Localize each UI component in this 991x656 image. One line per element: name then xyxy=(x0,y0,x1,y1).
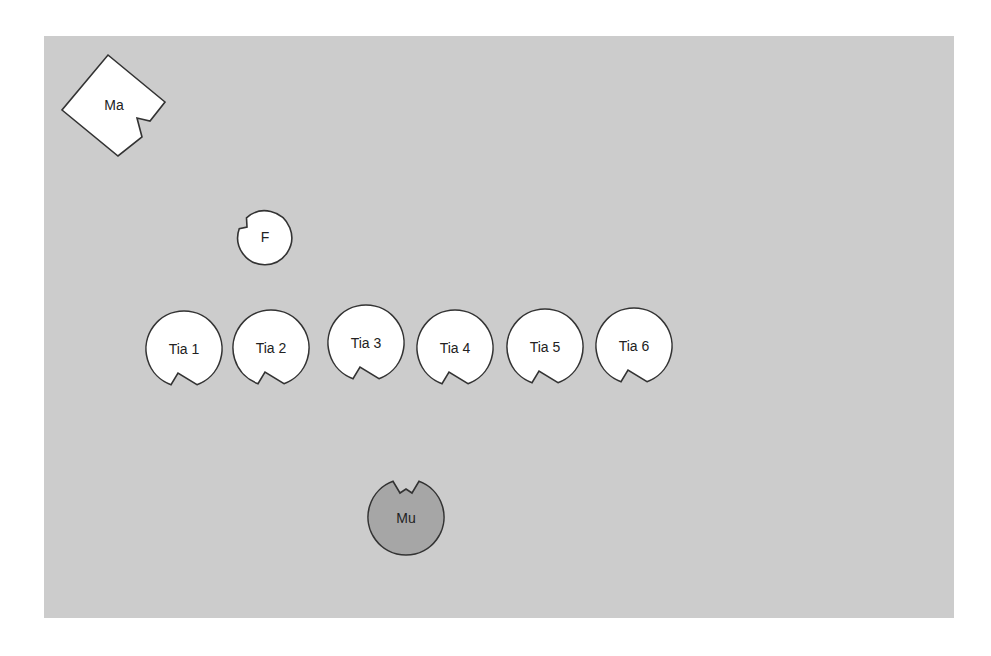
f-label: F xyxy=(261,229,270,245)
node-tia-2: Tia 2 xyxy=(233,310,309,384)
node-tia-6: Tia 6 xyxy=(596,308,672,382)
node-tia-3: Tia 3 xyxy=(328,305,404,379)
node-tia-5: Tia 5 xyxy=(507,309,583,383)
tia-2-label: Tia 2 xyxy=(256,340,287,356)
diagram-canvas: Ma F Tia 1 Tia 2 Tia 3 Tia 4 xyxy=(0,0,991,656)
tia-6-label: Tia 6 xyxy=(619,338,650,354)
tia-5-label: Tia 5 xyxy=(530,339,561,355)
node-f: F xyxy=(238,211,292,265)
mu-label: Mu xyxy=(396,510,415,526)
node-tia-1: Tia 1 xyxy=(146,311,222,385)
ma-label: Ma xyxy=(104,97,124,113)
tia-4-label: Tia 4 xyxy=(440,340,471,356)
node-mu: Mu xyxy=(368,481,444,555)
node-tia-4: Tia 4 xyxy=(417,310,493,384)
tia-3-label: Tia 3 xyxy=(351,335,382,351)
tia-1-label: Tia 1 xyxy=(169,341,200,357)
